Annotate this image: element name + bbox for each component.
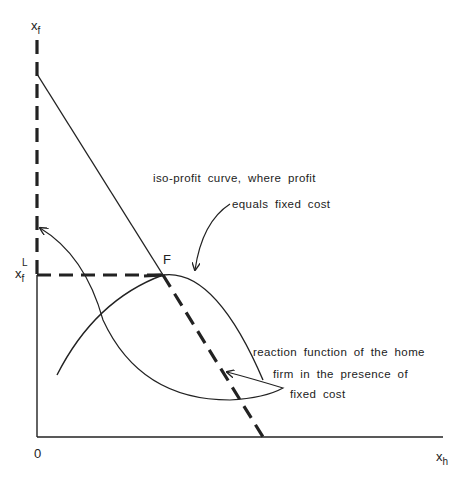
x-axis-label: xh	[436, 449, 448, 464]
y-axis-label-text: x	[31, 18, 38, 33]
reaction-function-dashed	[163, 275, 263, 437]
reaction-annotation-line2: firm in the presence of	[273, 368, 408, 380]
isoprofit-arrow	[195, 204, 230, 270]
reaction-annotation-line3: fixed cost	[290, 388, 346, 400]
xfL-tick-label: xLf	[15, 266, 24, 281]
xfL-tick-sub: f	[22, 273, 25, 284]
reaction-function-solid	[37, 74, 163, 275]
origin-label: 0	[34, 446, 41, 461]
reaction-annotation-line1: reaction function of the home	[253, 346, 425, 358]
y-axis-label: xf	[31, 18, 40, 33]
diagram-canvas	[0, 0, 459, 480]
isoprofit-annotation-line1: iso-profit curve, where profit	[153, 172, 316, 184]
isoprofit-annotation-line2: equals fixed cost	[232, 198, 330, 210]
x-axis-label-sub: h	[443, 456, 449, 467]
xfL-tick-text: x	[15, 266, 22, 281]
x-axis-label-text: x	[436, 449, 443, 464]
isoprofit-curve	[57, 275, 263, 380]
point-f-label: F	[163, 252, 171, 267]
xfL-tick-sup: L	[22, 257, 28, 268]
reaction-connector-curve	[40, 228, 283, 400]
y-axis-label-sub: f	[38, 25, 41, 36]
point-f-marker	[144, 275, 163, 276]
